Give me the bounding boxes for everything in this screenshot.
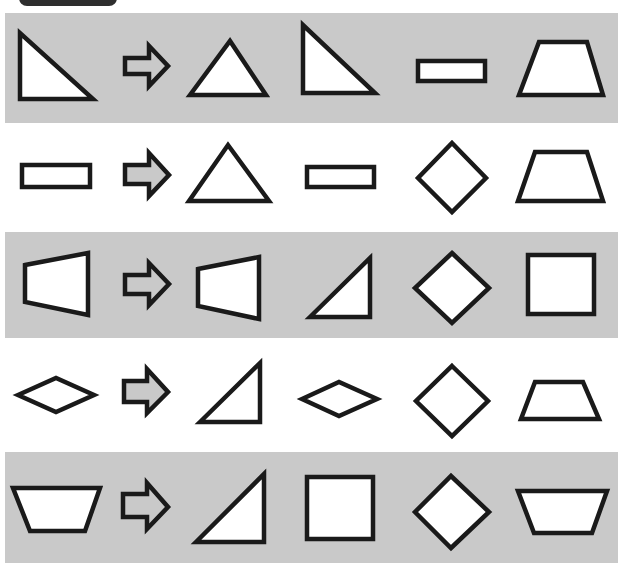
option-diamond[interactable] [415,253,489,323]
option-square[interactable] [528,255,594,314]
option-right-triangle[interactable] [310,258,370,317]
option-right-triangle[interactable] [303,25,375,93]
option-rectangle[interactable] [418,61,485,81]
row-1-shapes [5,13,618,123]
puzzle-row-3 [5,232,618,338]
puzzle-row-5 [5,452,618,563]
option-trapezoid[interactable] [521,382,599,419]
option-rectangle[interactable] [307,167,374,187]
puzzle-row-1 [5,13,618,123]
arrow-right-icon [125,153,169,196]
answer-right-triangle[interactable] [196,474,264,542]
answer-right-triangle[interactable] [200,363,260,422]
rectangle-icon [22,165,90,187]
option-diamond[interactable] [416,366,488,436]
rhombus-wide-icon [18,378,94,412]
answer-isosceles-triangle[interactable] [190,41,266,95]
arrow-right-icon [125,263,169,305]
row-5-shapes [5,452,618,563]
row-4-shapes [5,338,618,452]
header-tab [19,0,117,6]
option-diamond[interactable] [415,476,489,548]
option-trapezoid[interactable] [518,152,603,201]
answer-isosceles-triangle[interactable] [189,145,269,201]
arrow-right-icon [124,369,168,413]
arrow-right-icon [123,483,168,529]
puzzle-row-4 [5,338,618,452]
puzzle-row-2 [5,123,618,232]
row-2-shapes [5,123,618,232]
arrow-right-icon [125,46,168,86]
option-trapezoid[interactable] [519,42,603,95]
answer-trapezoid-left[interactable] [198,257,259,319]
row-3-shapes [5,232,618,338]
option-rhombus-wide[interactable] [302,382,377,416]
option-rhombus[interactable] [418,143,486,212]
trapezoid-down-icon [13,488,100,531]
option-square[interactable] [307,477,373,539]
option-trapezoid-down[interactable] [518,491,607,533]
trapezoid-left-icon [25,253,88,315]
right-triangle-icon [20,33,93,99]
